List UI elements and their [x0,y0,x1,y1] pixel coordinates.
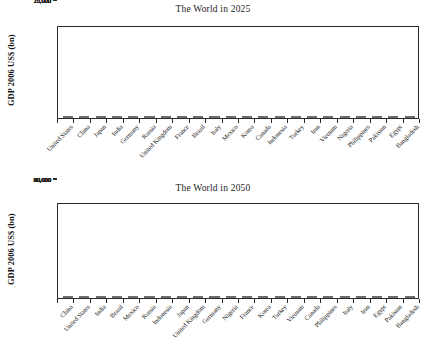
x-tick-mark [123,119,124,123]
bar-slot [76,204,92,298]
x-tick-label: Vietnam [318,123,338,143]
bar [372,116,382,118]
chart-world-2025: The World in 2025 GDP 2006 US$ (bn) 05,0… [0,0,426,179]
x-tick-mark [304,119,305,123]
bar-slot [353,27,369,118]
x-tick-mark [271,299,272,303]
bar-slot [320,27,336,118]
x-tick-mark [320,119,321,123]
bar [79,296,89,298]
x-axis-labels-2025: United StatesChinaJapanIndiaGermanyRussi… [57,123,419,179]
x-axis-labels-2050: ChinaUnited StatesIndiaBrazilMexicoRussi… [57,303,419,359]
bar [356,116,366,118]
x-tick-mark [90,119,91,123]
bar [372,296,382,298]
x-tick-label: Turkey [287,123,305,141]
x-tick-mark [254,119,255,123]
bar [193,296,203,298]
x-tick-mark [106,299,107,303]
bar-slot [60,204,76,298]
bar [161,116,171,118]
bar-slot [109,204,125,298]
y-axis-label-2050: GDP 2006 US$ (bn) [3,199,19,299]
x-tick-mark [386,299,387,303]
x-tick-mark [320,299,321,303]
x-tick-mark [370,119,371,123]
bar-slot [353,204,369,298]
x-tick-mark [222,299,223,303]
x-tick-mark [189,119,190,123]
bar-slot [174,27,190,118]
bar [388,116,398,118]
x-tick-mark [222,119,223,123]
chart-world-2050: The World in 2050 GDP 2006 US$ (bn) 010,… [0,179,426,359]
bar [177,296,187,298]
bar [388,296,398,298]
bar [258,116,268,118]
bar [356,296,366,298]
chart-title-2050: The World in 2050 [0,183,426,193]
bar-slot [174,204,190,298]
bar-slot [304,27,320,118]
bar [209,296,219,298]
bar-slot [93,27,109,118]
x-tick-mark [386,119,387,123]
bar-slot [402,27,418,118]
bar-slot [76,27,92,118]
x-tick-label: Korea [256,303,272,319]
bar-slot [190,204,206,298]
bar-slot [60,27,76,118]
bar-slot [385,27,401,118]
bar [340,116,350,118]
bar-slot [125,27,141,118]
bar-slot [337,27,353,118]
x-tick-label: Mexico [220,123,239,142]
x-tick-mark [189,299,190,303]
x-tick-label: China [75,123,91,139]
chart-title-2025: The World in 2025 [0,4,426,14]
x-tick-mark [205,299,206,303]
bar-slot [206,204,222,298]
x-tick-mark [304,299,305,303]
bar-slot [93,204,109,298]
bar [193,116,203,118]
plot-area-2025 [57,26,419,119]
bar-slot [158,27,174,118]
bar-slot [125,204,141,298]
x-tick-label: Iran [358,303,370,315]
y-tick-mark [53,0,57,1]
figure-page: The World in 2025 GDP 2006 US$ (bn) 05,0… [0,0,426,359]
y-tick-label: 25,000 [33,0,51,4]
x-tick-label: Vietnam [285,303,305,323]
bar [307,296,317,298]
x-tick-label: India [93,303,107,317]
bar [79,116,89,118]
bar-slot [239,204,255,298]
bar-slot [239,27,255,118]
x-tick-label: Brazil [190,123,206,139]
bar-slot [369,27,385,118]
y-tick-mark [53,179,57,180]
x-tick-mark [419,119,420,123]
x-tick-label: Mexico [122,303,141,322]
bar [242,296,252,298]
bar-slot [255,204,271,298]
bar [405,116,415,118]
bar [307,116,317,118]
bar [275,296,285,298]
bar-slot [141,204,157,298]
x-tick-mark [172,299,173,303]
bar [63,296,73,298]
x-tick-label: United States [46,123,75,152]
x-tick-mark [106,119,107,123]
x-tick-mark [73,119,74,123]
bar [128,116,138,118]
bar-slot [288,27,304,118]
plot-area-2050 [57,203,419,299]
x-tick-mark [370,299,371,303]
bar-slot [320,204,336,298]
x-tick-mark [287,299,288,303]
bar-series-2050 [58,204,418,298]
bar [128,296,138,298]
bar [112,296,122,298]
